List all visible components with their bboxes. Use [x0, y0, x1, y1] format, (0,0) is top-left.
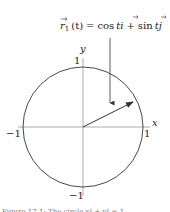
figure-caption: Figure 17.1: The circle x² + y² = 1 [2, 208, 124, 212]
y-tick-neg1: −1 [69, 190, 84, 201]
unit-circle-diagram: r1(t)=costi+sintj y x 1 1 −1 −1 Figure 1… [0, 0, 170, 212]
y-tick-1: 1 [74, 55, 80, 66]
vector-arrow-i-icon [133, 16, 138, 19]
vector-arrow-j-icon [161, 16, 166, 19]
x-tick-1: 1 [144, 128, 150, 139]
x-axis-label: x [152, 117, 158, 128]
position-vector [83, 102, 133, 127]
x-tick-neg1: −1 [6, 128, 21, 139]
y-axis-label: y [79, 43, 86, 54]
vector-function-label: r1(t)=costi+sintj [60, 20, 162, 33]
